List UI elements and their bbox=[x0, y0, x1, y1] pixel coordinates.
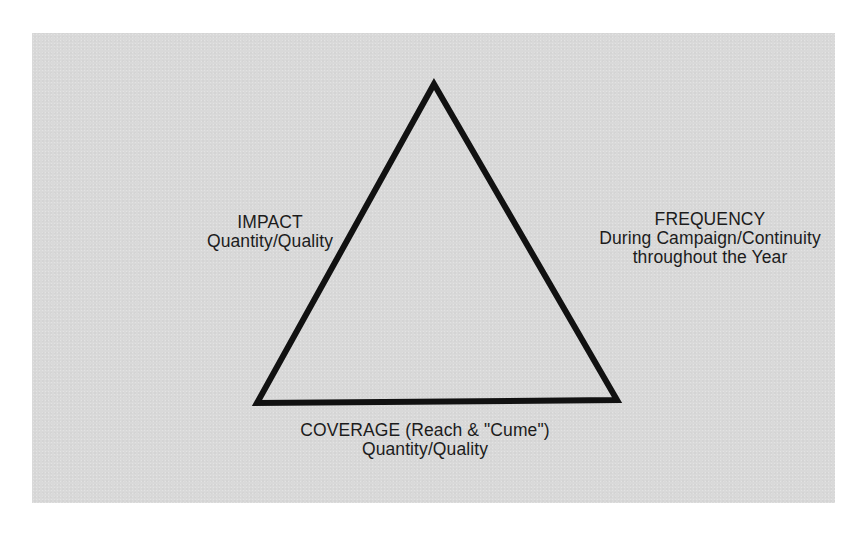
impact-subtitle: Quantity/Quality bbox=[200, 232, 340, 251]
frequency-line-2: During Campaign/Continuity bbox=[580, 229, 840, 248]
coverage-subtitle: Quantity/Quality bbox=[255, 440, 595, 459]
impact-label: IMPACT Quantity/Quality bbox=[200, 213, 340, 251]
coverage-title: COVERAGE (Reach & "Cume") bbox=[255, 421, 595, 440]
coverage-label: COVERAGE (Reach & "Cume") Quantity/Quali… bbox=[255, 421, 595, 459]
impact-title: IMPACT bbox=[200, 213, 340, 232]
frequency-label: FREQUENCY During Campaign/Continuity thr… bbox=[580, 210, 840, 267]
frequency-line-3: throughout the Year bbox=[580, 248, 840, 267]
frequency-title: FREQUENCY bbox=[580, 210, 840, 229]
